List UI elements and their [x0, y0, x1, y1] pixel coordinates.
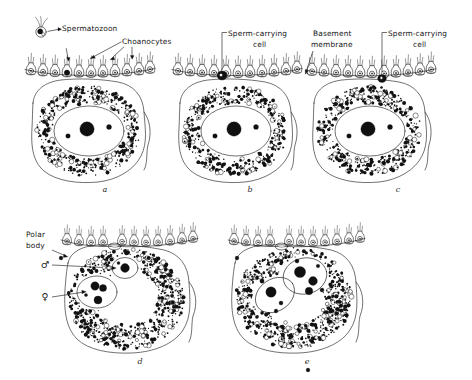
- female-granule-d: [84, 293, 87, 296]
- male-nucleolus-e2: [309, 277, 318, 286]
- male-nucleolus-e1: [294, 266, 305, 277]
- choanocytes-leader-1: [92, 42, 121, 58]
- diagram-svg: Spermatozoon Choanocytes: [0, 0, 472, 380]
- choanocyte-layer-e: [228, 223, 365, 250]
- nucleolus-c: [361, 122, 375, 136]
- choanocyte-layer-c: [306, 52, 436, 83]
- polar-body-arrowhead: [63, 254, 67, 257]
- female-granule-e3: [274, 309, 278, 313]
- stray-granule-e1: [235, 256, 239, 260]
- nucleolus-a: [80, 122, 94, 136]
- figure-canvas: Spermatozoon Choanocytes: [0, 0, 472, 380]
- spermatozoon-glyph: [35, 17, 47, 38]
- stray-granule-e2: [306, 368, 310, 372]
- nuclear-granule-b2: [254, 125, 259, 130]
- label-sperm-carrying-cell-c-line1: Sperm-carrying: [388, 29, 447, 38]
- nuclear-granule-c1: [347, 134, 352, 139]
- choanocytes-arrowhead-3: [130, 56, 134, 60]
- label-sperm-carrying-cell-b-line1: Sperm-carrying: [228, 29, 287, 38]
- female-nucleolus-d3: [94, 296, 102, 304]
- label-sperm-carrying-cell-b-line2: cell: [253, 40, 266, 49]
- label-polar-body-line2: body: [26, 241, 45, 250]
- spermatozoon-leader: [48, 29, 59, 31]
- choanocyte-layer-b: [172, 52, 302, 80]
- female-nucleolus-e1: [266, 287, 276, 297]
- choanocyte-layer-a: [25, 52, 155, 78]
- panel-letter-b: b: [247, 185, 252, 194]
- label-spermatozoon: Spermatozoon: [62, 24, 118, 33]
- choanocyte-layer-d: [61, 223, 198, 250]
- label-choanocytes: Choanocytes: [122, 37, 171, 46]
- panel-d: Polar body ♂ ♀: [26, 223, 198, 366]
- nucleolus-b: [227, 122, 241, 136]
- female-granule-e2: [279, 301, 283, 305]
- male-granule-d: [117, 262, 120, 265]
- egg-outline-d: [65, 245, 190, 353]
- nuclear-granule-a1: [66, 134, 71, 139]
- panel-letter-c: c: [396, 185, 401, 194]
- male-nucleolus-d: [121, 264, 130, 273]
- female-nucleolus-d1: [91, 282, 99, 290]
- stray-granule-d: [59, 256, 63, 260]
- label-polar-body-line1: Polar: [26, 230, 46, 239]
- male-granule-e3: [320, 288, 324, 292]
- nuclear-granule-a2: [107, 125, 112, 130]
- panel-letter-a: a: [103, 185, 108, 194]
- choanocytes-arrowhead-1: [90, 55, 95, 58]
- cytoplasm-stipple-d: [67, 248, 186, 351]
- panel-a: Spermatozoon Choanocytes: [25, 17, 171, 194]
- panel-b: Sperm-carrying cell: [172, 29, 302, 194]
- panel-e: e: [228, 223, 365, 372]
- nuclear-granule-b1: [213, 134, 218, 139]
- male-symbol: ♂: [41, 259, 50, 270]
- label-basement-membrane-line1: Basement: [313, 29, 352, 38]
- egg-lobe-d: [189, 282, 196, 342]
- male-granule-e1: [295, 259, 299, 263]
- panel-c: Basement membrane Sperm-carrying cell: [305, 29, 447, 194]
- sperm-carrying-cell-c: [378, 75, 387, 83]
- nuclear-granule-c2: [388, 125, 393, 130]
- female-nucleolus-d2: [99, 284, 106, 291]
- choanocytes-leader-2: [112, 47, 125, 59]
- female-pronucleus-arrowhead: [82, 290, 86, 294]
- label-basement-membrane-line2: membrane: [311, 40, 353, 49]
- cytoplasm-stipple-e: [235, 247, 354, 349]
- panel-letter-e: e: [305, 357, 310, 366]
- female-symbol: ♀: [42, 291, 49, 302]
- sperm-in-epithelium-a: [64, 70, 69, 75]
- male-nucleolus-e3: [305, 287, 313, 295]
- label-sperm-carrying-cell-c-line2: cell: [413, 40, 426, 49]
- egg-lobe-e: [356, 282, 363, 342]
- male-granule-e2: [316, 264, 320, 268]
- panel-letter-d: d: [137, 357, 142, 366]
